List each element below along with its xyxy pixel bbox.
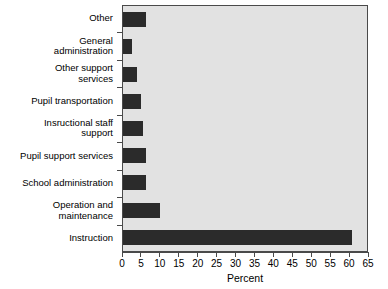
bar-slot (123, 169, 367, 196)
category-tick (115, 142, 122, 169)
bar (123, 230, 352, 245)
category-label: Other (0, 5, 118, 32)
x-tick (330, 252, 331, 257)
x-tick (235, 252, 236, 257)
x-tick (254, 252, 255, 257)
category-label: Instruction (0, 225, 118, 252)
category-axis-ticks (115, 5, 122, 252)
x-tick-label: 50 (306, 258, 317, 270)
bar-chart: OtherGeneral administrationOther support… (0, 0, 388, 289)
x-tick-label: 20 (192, 258, 203, 270)
category-label: Pupil transportation (0, 87, 118, 114)
x-tick-label: 35 (249, 258, 260, 270)
x-axis-tick-labels: 05101520253035404550556065 (122, 258, 368, 271)
bar (123, 67, 137, 82)
category-tick (115, 115, 122, 142)
x-tick (178, 252, 179, 257)
category-axis-labels: OtherGeneral administrationOther support… (0, 5, 118, 252)
bar-slot (123, 6, 367, 33)
x-tick (197, 252, 198, 257)
x-tick-label: 25 (211, 258, 222, 270)
x-tick (311, 252, 312, 257)
category-label: Operation and maintenance (0, 197, 118, 224)
category-tick (115, 32, 122, 59)
x-tick-label: 15 (173, 258, 184, 270)
category-label: Pupil support services (0, 142, 118, 169)
bar (123, 12, 146, 27)
x-tick (368, 252, 369, 257)
plot-area (122, 5, 368, 252)
category-tick (115, 87, 122, 114)
x-tick (159, 252, 160, 257)
bars-layer (123, 6, 367, 251)
bar-slot (123, 60, 367, 87)
x-tick (122, 252, 123, 257)
category-tick (115, 5, 122, 32)
x-tick (292, 252, 293, 257)
category-tick (115, 170, 122, 197)
category-label: Insructional staff support (0, 115, 118, 142)
x-tick-label: 0 (119, 258, 125, 270)
bar-slot (123, 142, 367, 169)
x-tick (273, 252, 274, 257)
bar-slot (123, 88, 367, 115)
bar (123, 39, 132, 54)
category-tick (115, 197, 122, 224)
x-tick-label: 10 (154, 258, 165, 270)
bar-slot (123, 115, 367, 142)
bar (123, 203, 160, 218)
x-tick-label: 65 (362, 258, 373, 270)
x-tick-label: 40 (268, 258, 279, 270)
x-axis-title: Percent (122, 272, 368, 285)
x-tick (349, 252, 350, 257)
category-label: Other support services (0, 60, 118, 87)
bar-slot (123, 33, 367, 60)
x-tick (140, 252, 141, 257)
bar-slot (123, 197, 367, 224)
x-tick (216, 252, 217, 257)
bar-slot (123, 224, 367, 251)
category-label: School administration (0, 170, 118, 197)
x-tick-label: 60 (344, 258, 355, 270)
category-tick (115, 60, 122, 87)
category-tick (115, 225, 122, 252)
bar (123, 94, 141, 109)
bar (123, 148, 146, 163)
x-tick-label: 5 (138, 258, 144, 270)
bar (123, 175, 146, 190)
x-tick-label: 45 (287, 258, 298, 270)
x-tick-label: 55 (325, 258, 336, 270)
bar (123, 121, 143, 136)
category-label: General administration (0, 32, 118, 59)
x-tick-label: 30 (230, 258, 241, 270)
